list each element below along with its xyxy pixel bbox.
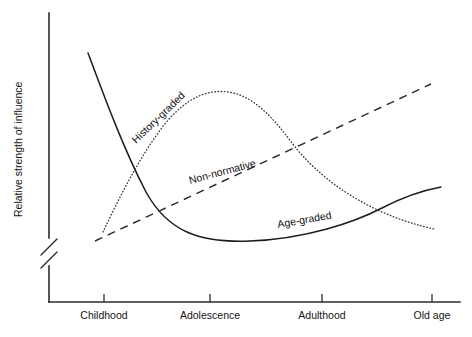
- y-axis-title: Relative strength of influence: [12, 81, 24, 217]
- x-tick-label-childhood: Childhood: [80, 309, 127, 321]
- curve-non-normative: [95, 84, 431, 241]
- x-tick-label-old-age: Old age: [414, 309, 451, 321]
- x-tick-label-adolescence: Adolescence: [180, 309, 240, 321]
- chart-figure: Relative strength of influence Childhood…: [0, 0, 472, 337]
- curve-age-graded: [88, 53, 441, 241]
- curve-label-age-graded: Age-graded: [276, 209, 332, 230]
- chart-canvas: Relative strength of influence Childhood…: [0, 0, 472, 337]
- x-tick-label-adulthood: Adulthood: [298, 309, 345, 321]
- curve-history-graded: [103, 91, 434, 232]
- y-axis-break-mark-upper: [41, 239, 57, 255]
- curve-label-history-graded: History-graded: [129, 89, 187, 146]
